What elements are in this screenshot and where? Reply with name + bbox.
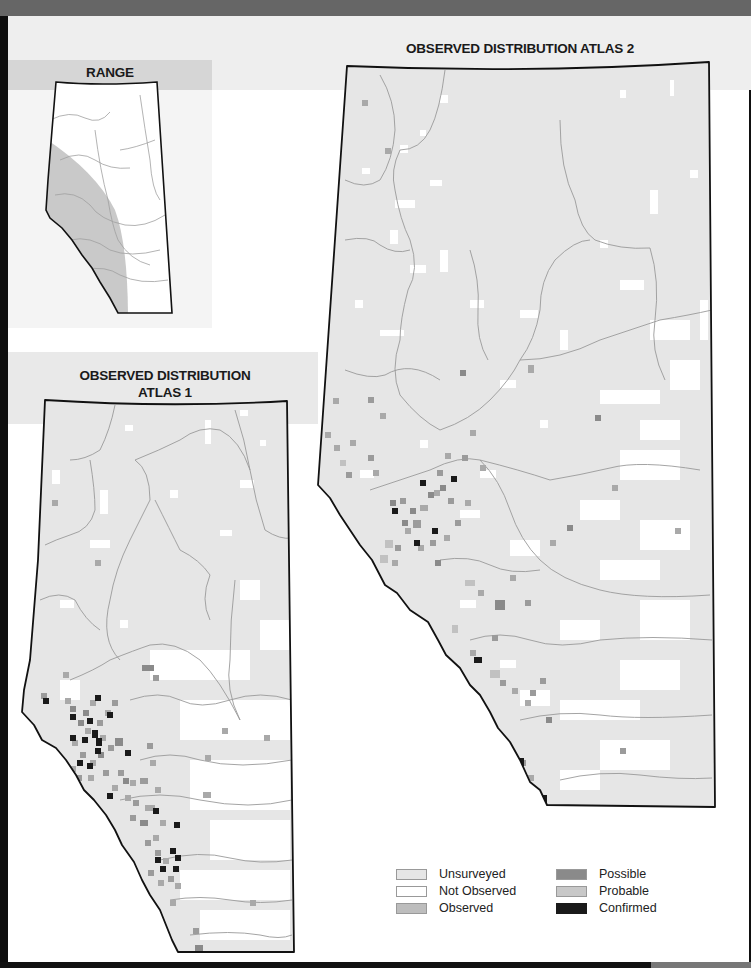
legend-label: Possible <box>599 867 646 881</box>
legend-label: Confirmed <box>599 901 657 915</box>
legend-item-possible: Possible <box>556 866 646 882</box>
legend-swatch-possible <box>556 869 587 880</box>
page-edge-left <box>0 16 8 962</box>
legend: Unsurveyed Not Observed Observed Possibl… <box>396 866 716 916</box>
legend-swatch-probable <box>556 886 587 897</box>
legend-swatch-unsurveyed <box>396 869 427 880</box>
bottom-bar <box>0 962 751 968</box>
legend-swatch-observed <box>396 903 427 914</box>
bottom-bar-accent <box>651 962 751 968</box>
legend-swatch-confirmed <box>556 903 587 914</box>
legend-item-not-observed: Not Observed <box>396 883 516 899</box>
legend-item-probable: Probable <box>556 883 649 899</box>
maps-canvas <box>0 0 751 968</box>
legend-swatch-not-observed <box>396 886 427 897</box>
legend-item-unsurveyed: Unsurveyed <box>396 866 506 882</box>
atlas2-map <box>318 62 715 807</box>
legend-label: Unsurveyed <box>439 867 506 881</box>
legend-label: Probable <box>599 884 649 898</box>
atlas1-map <box>22 400 294 952</box>
range-map <box>40 82 172 320</box>
legend-label: Observed <box>439 901 493 915</box>
legend-item-observed: Observed <box>396 900 493 916</box>
legend-item-confirmed: Confirmed <box>556 900 657 916</box>
legend-label: Not Observed <box>439 884 516 898</box>
